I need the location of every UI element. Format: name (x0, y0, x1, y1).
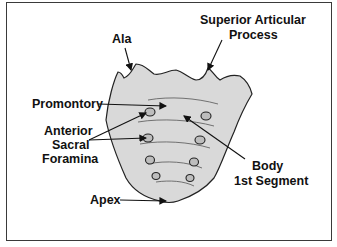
label-ala: Ala (112, 32, 131, 47)
label-anterior-sacral-foramina-line3: Foramina (42, 152, 98, 167)
label-body-line2: 1st Segment (234, 174, 308, 189)
label-anterior-sacral-foramina-line1: Anterior (44, 124, 93, 139)
label-superior-articular-line1: Superior Articular (200, 13, 306, 28)
label-promontory: Promontory (32, 97, 103, 112)
label-superior-articular-line2: Process (229, 28, 278, 43)
label-apex: Apex (90, 193, 121, 208)
label-body-line1: Body (252, 159, 283, 174)
label-anterior-sacral-foramina-line2: Sacral (52, 138, 90, 153)
